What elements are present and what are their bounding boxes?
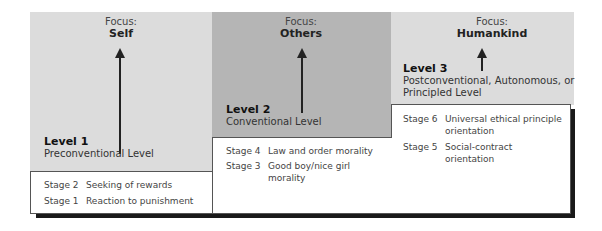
level-label: Level 1 [44,136,154,148]
seam-cover [391,138,393,213]
level-label: Level 2 [226,104,321,116]
stage-number: Stage 3 [226,161,261,172]
focus-value: Humankind [437,28,547,40]
stage-description-line1: Universal ethical principle [445,114,562,125]
level-2-focus: Focus: Others [266,16,336,40]
stage-description-line1: Good boy/nice girl [268,161,350,172]
stage-number: Stage 6 [403,114,438,125]
level-label: Level 3 [403,63,574,75]
level-3-heading: Level 3 Postconventional, Autonomous, or… [403,63,574,99]
level-3-focus: Focus: Humankind [437,16,547,40]
stage-description-line1: Social-contract [445,142,512,153]
stage-number: Stage 1 [44,196,79,207]
stage-description: Reaction to punishment [86,196,193,207]
level-1-focus: Focus: Self [86,16,156,40]
focus-value: Others [266,28,336,40]
focus-value: Self [86,28,156,40]
level-2-heading: Level 2 Conventional Level [226,104,321,128]
stage-number: Stage 4 [226,146,261,157]
level-name-line2: Principled Level [403,87,574,99]
stage-number: Stage 5 [403,142,438,153]
stage-description-line2: orientation [445,126,494,137]
stage-description-line2: morality [268,173,305,184]
level-1-heading: Level 1 Preconventional Level [44,136,154,160]
stage-description-line2: orientation [445,154,494,165]
stage-description: Law and order morality [268,146,373,157]
stage-description: Seeking of rewards [86,180,172,191]
level-1-stages-box [30,171,213,214]
level-name: Preconventional Level [44,148,154,159]
seam-cover [213,172,215,213]
level-name-line1: Postconventional, Autonomous, or [403,75,574,87]
level-name: Conventional Level [226,116,321,127]
stage-number: Stage 2 [44,180,79,191]
